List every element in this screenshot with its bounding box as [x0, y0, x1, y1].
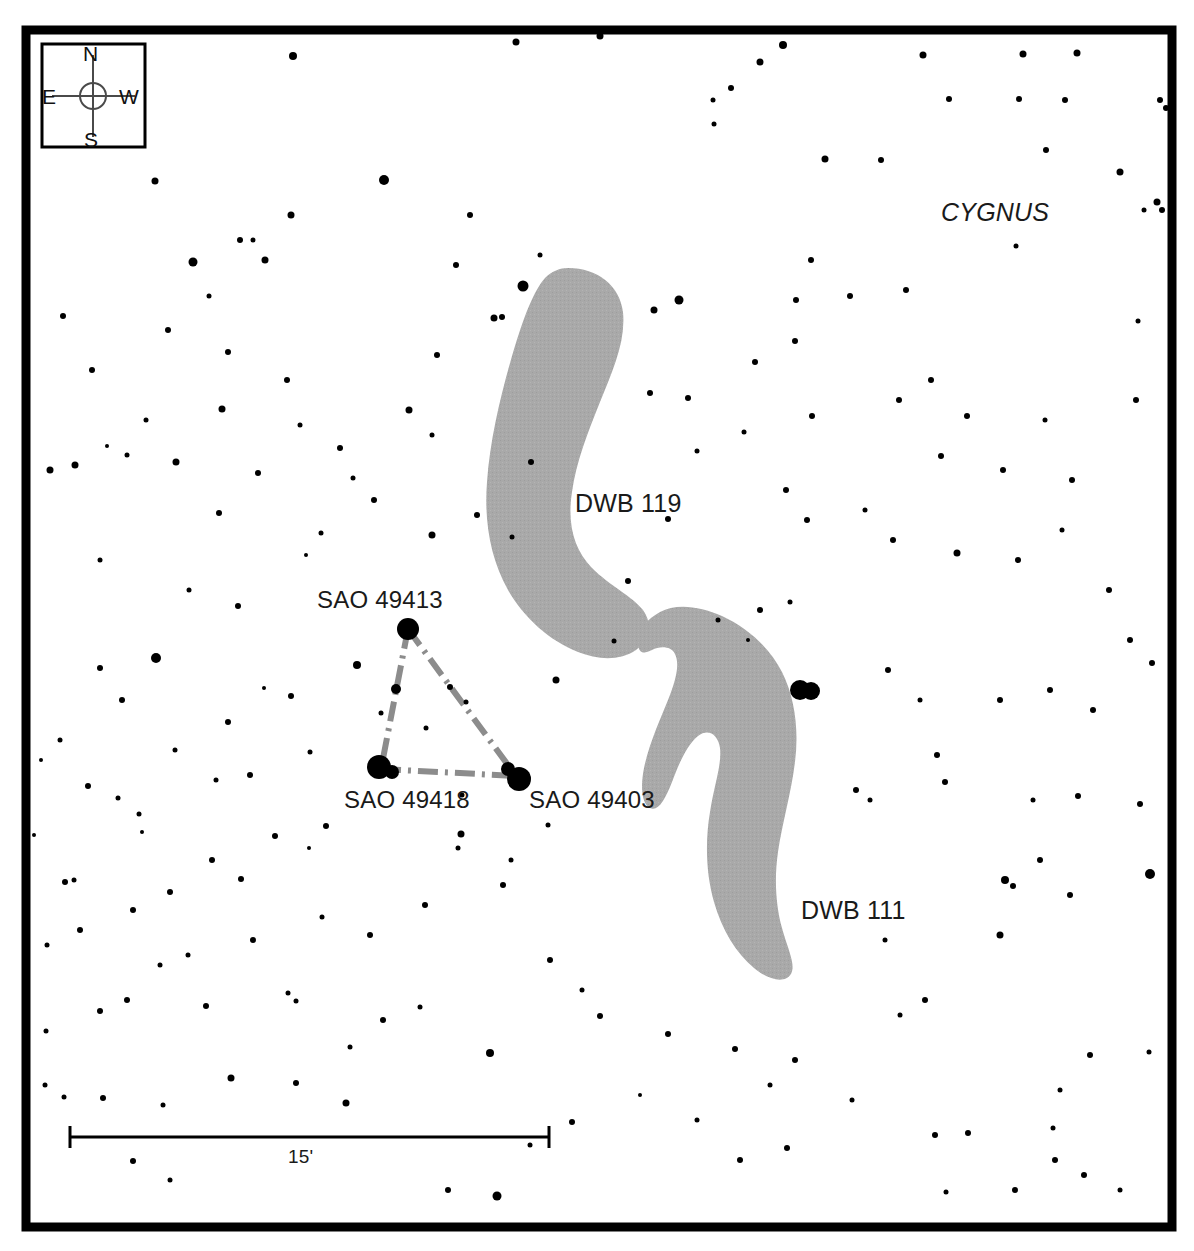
star-marker	[97, 665, 103, 671]
star-marker	[896, 397, 902, 403]
star-marker	[353, 661, 361, 669]
star-marker	[651, 307, 658, 314]
star-marker	[695, 1118, 700, 1123]
star-marker	[1015, 557, 1021, 563]
star-marker	[62, 1095, 67, 1100]
star-marker	[238, 876, 244, 882]
star-marker	[964, 413, 970, 419]
double-star-near-dwb111-b	[802, 682, 820, 700]
star-marker	[1051, 1126, 1056, 1131]
star-marker	[1058, 1088, 1063, 1093]
star-marker	[424, 726, 429, 731]
star-sao-49413	[397, 618, 419, 640]
star-marker	[434, 352, 440, 358]
star-marker	[116, 796, 121, 801]
star-marker	[262, 686, 266, 690]
star-marker	[1047, 687, 1053, 693]
nebula-label-dwb-119: DWB 119	[575, 489, 682, 518]
star-marker	[237, 237, 243, 243]
star-marker	[58, 738, 63, 743]
star-marker	[1133, 397, 1139, 403]
star-marker	[809, 413, 815, 419]
star-marker	[1145, 869, 1155, 879]
star-marker	[165, 327, 171, 333]
star-marker	[186, 953, 191, 958]
star-marker	[920, 52, 927, 59]
star-marker	[422, 902, 428, 908]
star-marker	[1031, 798, 1036, 803]
star-marker	[1118, 1188, 1123, 1193]
star-marker	[464, 700, 469, 705]
star-marker	[918, 698, 923, 703]
star-marker	[757, 607, 763, 613]
star-marker	[847, 293, 853, 299]
star-marker	[77, 927, 83, 933]
star-marker	[752, 359, 758, 365]
star-marker	[792, 1057, 798, 1063]
star-marker	[251, 238, 256, 243]
star-marker	[151, 653, 161, 663]
star-marker	[728, 85, 734, 91]
star-marker	[898, 1013, 903, 1018]
star-marker	[513, 39, 520, 46]
star-sao-49418-companion	[385, 765, 399, 779]
star-marker	[173, 459, 180, 466]
star-marker	[158, 963, 163, 968]
star-marker	[553, 677, 560, 684]
star-marker	[1037, 857, 1043, 863]
star-marker	[458, 831, 465, 838]
star-chart-root: CYGNUS DWB 119 DWB 111 SAO 49413 SAO 494…	[0, 0, 1194, 1251]
star-marker	[72, 462, 79, 469]
star-marker	[445, 1187, 451, 1193]
star-marker	[161, 1103, 166, 1108]
star-marker	[293, 1080, 299, 1086]
star-marker	[954, 550, 961, 557]
star-marker	[546, 823, 551, 828]
star-marker	[1060, 528, 1065, 533]
star-marker	[225, 719, 231, 725]
star-marker	[187, 588, 192, 593]
star-marker	[348, 1045, 353, 1050]
scale-bar-label: 15'	[288, 1146, 313, 1168]
compass-west-label: W	[119, 85, 139, 109]
star-marker	[214, 778, 219, 783]
star-marker	[343, 1100, 350, 1107]
star-marker	[1075, 793, 1081, 799]
star-marker	[467, 212, 473, 218]
star-marker	[119, 697, 125, 703]
star-marker	[308, 750, 313, 755]
star-marker	[351, 476, 356, 481]
star-marker	[932, 1132, 938, 1138]
star-marker	[1020, 51, 1027, 58]
star-marker	[1117, 169, 1124, 176]
star-marker	[379, 711, 384, 716]
star-marker	[1043, 147, 1049, 153]
star-marker	[319, 531, 324, 536]
star-marker	[863, 508, 868, 513]
star-marker	[928, 377, 934, 383]
star-marker	[732, 1046, 738, 1052]
star-label-sao-49418: SAO 49418	[344, 786, 470, 814]
star-marker	[298, 423, 303, 428]
star-marker	[1157, 97, 1163, 103]
star-marker	[716, 618, 721, 623]
star-marker	[890, 537, 896, 543]
star-marker	[307, 846, 311, 850]
star-marker	[528, 459, 534, 465]
star-marker	[272, 833, 278, 839]
star-marker	[1052, 1157, 1058, 1163]
star-marker	[62, 879, 68, 885]
star-marker	[1067, 892, 1073, 898]
star-marker	[337, 445, 343, 451]
star-marker	[1087, 1052, 1093, 1058]
star-marker	[491, 315, 498, 322]
star-marker	[130, 907, 136, 913]
star-marker	[737, 1157, 743, 1163]
star-marker	[1012, 1187, 1018, 1193]
star-marker	[225, 349, 231, 355]
star-marker	[168, 1178, 173, 1183]
star-marker	[625, 578, 631, 584]
compass-east-label: E	[42, 85, 56, 109]
star-marker	[203, 1003, 209, 1009]
star-marker	[406, 407, 413, 414]
